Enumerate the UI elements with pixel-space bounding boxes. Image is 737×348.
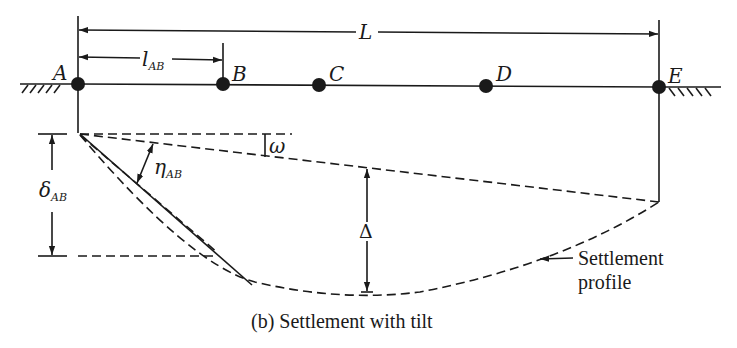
point-d-marker [479, 79, 493, 93]
dimension-lab-right [172, 59, 222, 60]
lab-subscript: AB [148, 60, 164, 73]
ground-hatch-right [660, 87, 721, 96]
eta-subscript: AB [166, 168, 182, 181]
delta-ab-subscript: AB [51, 191, 67, 204]
point-a-marker [71, 77, 85, 91]
relative-deflection-label: Δ [359, 222, 373, 241]
delta-ab-symbol: δ [39, 178, 51, 202]
point-c-marker [312, 78, 326, 92]
point-label-e: E [668, 66, 683, 86]
eta-arc-arrow [137, 144, 153, 183]
settlement-profile-label-line1: Settlement [578, 248, 664, 268]
point-b-marker [216, 77, 230, 91]
eta-symbol: η [154, 155, 166, 179]
building-line [78, 84, 659, 87]
angular-distortion-label: ηAB [154, 157, 182, 180]
dimension-label-lab: lAB [142, 49, 164, 72]
dimension-label-l: L [359, 22, 372, 42]
dimension-lab-left [79, 57, 140, 58]
settlement-profile-label-line2: profile [578, 272, 631, 292]
dimension-l-left [79, 30, 356, 32]
point-label-b: B [232, 64, 247, 84]
settlement-profile-pointer [540, 258, 573, 259]
figure-caption: (b) Settlement with tilt [251, 311, 433, 331]
point-label-a: A [53, 63, 67, 83]
point-e-marker [652, 80, 666, 94]
ground-hatch-left [20, 84, 78, 93]
dimension-l-right [378, 32, 658, 34]
point-label-d: D [496, 64, 512, 84]
settlement-diagram [0, 0, 737, 348]
differential-settlement-label: δAB [39, 180, 67, 203]
tilt-label-omega: ω [269, 136, 285, 156]
point-label-c: C [329, 64, 344, 84]
